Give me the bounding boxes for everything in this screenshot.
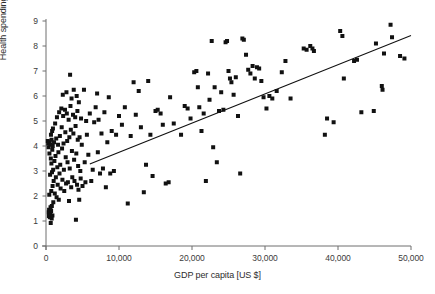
data-point <box>51 184 55 188</box>
data-point <box>70 97 74 101</box>
data-point <box>75 109 79 113</box>
data-point <box>197 105 201 109</box>
data-point <box>167 180 171 184</box>
data-point <box>101 167 105 171</box>
data-point <box>332 120 336 124</box>
data-point <box>86 153 90 157</box>
data-point <box>142 190 146 194</box>
data-point <box>57 198 61 202</box>
data-point <box>53 154 57 158</box>
data-point <box>51 144 55 148</box>
data-point <box>104 185 108 189</box>
data-point <box>76 164 80 168</box>
data-point <box>228 77 232 81</box>
data-point <box>156 108 160 112</box>
data-point <box>52 179 56 183</box>
data-point <box>151 174 155 178</box>
data-point <box>47 193 51 197</box>
data-point <box>139 125 143 129</box>
data-point <box>76 188 80 192</box>
x-tick-label: 0 <box>21 253 71 263</box>
data-point <box>79 117 83 121</box>
data-point <box>85 133 89 137</box>
data-point <box>67 199 71 203</box>
data-point <box>60 147 64 151</box>
data-point <box>146 79 150 83</box>
data-point <box>102 110 106 114</box>
data-point <box>172 122 176 126</box>
data-point <box>69 185 73 189</box>
data-point <box>374 42 378 46</box>
data-point <box>194 69 198 73</box>
data-point <box>65 112 69 116</box>
data-point <box>72 88 76 92</box>
data-point <box>134 113 138 117</box>
data-point <box>120 123 124 127</box>
data-point <box>52 159 56 163</box>
data-point <box>112 169 116 173</box>
data-point <box>211 145 215 149</box>
data-point <box>72 179 76 183</box>
data-point <box>206 72 210 76</box>
data-point <box>65 139 69 143</box>
data-point <box>52 140 56 144</box>
y-tick-label: 6 <box>20 91 38 101</box>
data-point <box>186 107 190 111</box>
x-tick-label: 40,000 <box>313 253 363 263</box>
y-tick-label: 5 <box>20 116 38 126</box>
data-point <box>219 90 223 94</box>
data-point <box>49 209 53 213</box>
data-point <box>49 189 53 193</box>
data-point <box>129 134 133 138</box>
data-point <box>105 140 109 144</box>
y-axis-label: Health spending [% GDP] <box>0 0 8 70</box>
data-point <box>225 39 229 43</box>
data-point <box>59 107 63 111</box>
data-point <box>51 200 55 204</box>
data-point <box>68 104 72 108</box>
x-tick-label: 20,000 <box>167 253 217 263</box>
trendline-group <box>90 36 411 165</box>
data-point <box>74 124 78 128</box>
data-point <box>117 114 121 118</box>
data-point <box>248 72 252 76</box>
data-point <box>57 110 61 114</box>
data-point <box>58 163 62 167</box>
data-point <box>66 160 70 164</box>
y-tick-label: 1 <box>20 216 38 226</box>
data-point <box>96 150 100 154</box>
axes-group <box>42 19 411 250</box>
data-point <box>338 29 342 33</box>
data-point <box>59 187 63 191</box>
y-tick-label: 7 <box>20 66 38 76</box>
data-point <box>63 130 67 134</box>
data-point <box>264 107 268 111</box>
data-point <box>54 175 58 179</box>
data-point <box>56 143 60 147</box>
data-point <box>251 64 255 68</box>
data-point <box>62 189 66 193</box>
data-point <box>78 169 82 173</box>
data-points-group <box>46 23 407 225</box>
data-point <box>50 148 54 152</box>
data-point <box>82 88 86 92</box>
data-point <box>50 204 54 208</box>
data-point <box>47 152 51 156</box>
data-point <box>73 115 77 119</box>
data-point <box>355 58 359 62</box>
data-point <box>204 179 208 183</box>
data-point <box>280 70 284 74</box>
data-point <box>49 157 53 161</box>
data-point <box>389 23 393 27</box>
data-point <box>74 152 78 156</box>
data-point <box>72 158 76 162</box>
data-point <box>51 127 55 131</box>
data-point <box>262 95 266 99</box>
data-point <box>253 77 257 81</box>
data-point <box>63 108 67 112</box>
data-point <box>215 160 219 164</box>
data-point <box>62 142 66 146</box>
data-point <box>58 172 62 176</box>
data-point <box>312 49 316 53</box>
data-point <box>232 93 236 97</box>
